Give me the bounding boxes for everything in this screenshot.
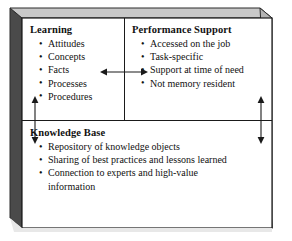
double-arrow-vertical-left-icon xyxy=(29,96,41,144)
list-item: Concepts xyxy=(39,50,120,63)
double-arrow-vertical-right-icon xyxy=(255,96,267,144)
list-item: Processes xyxy=(39,77,120,90)
list-item: Connection to experts and high-value inf… xyxy=(39,166,228,192)
panel-knowledge-base-bullets: Repository of knowledge objects Sharing … xyxy=(30,140,266,193)
block-top-face xyxy=(10,8,272,18)
list-item: Not memory resident xyxy=(141,77,268,90)
list-item: Repository of knowledge objects xyxy=(39,140,266,153)
panel-performance-support-bullets: Accessed on the job Task-specific Suppor… xyxy=(132,37,268,90)
list-item: Attitudes xyxy=(39,37,120,50)
panel-learning-title: Learning xyxy=(30,24,120,36)
list-item: Support at time of need xyxy=(141,63,268,76)
panel-performance-support-title: Performance Support xyxy=(132,24,268,36)
list-item: Task-specific xyxy=(141,50,268,63)
panel-knowledge-base: Knowledge Base Repository of knowledge o… xyxy=(22,120,272,228)
block-diagram: Learning Attitudes Concepts Facts Proces… xyxy=(0,0,292,241)
block-side-face xyxy=(10,8,22,228)
list-item: Sharing of best practices and lessons le… xyxy=(39,153,266,166)
list-item: Accessed on the job xyxy=(141,37,268,50)
front-face-content: Learning Attitudes Concepts Facts Proces… xyxy=(22,18,272,228)
list-item: Procedures xyxy=(39,90,120,103)
panel-knowledge-base-title: Knowledge Base xyxy=(30,127,266,139)
double-arrow-horizontal-icon xyxy=(100,66,148,78)
